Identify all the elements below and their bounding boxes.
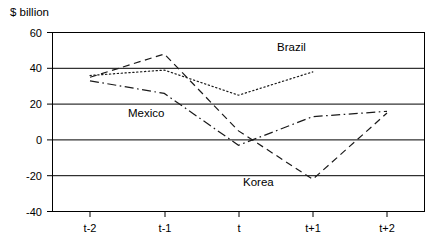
y-axis-label-20: 20 [8,98,42,110]
y-axis-label-40: 40 [8,62,42,74]
x-axis-ticks [90,212,387,218]
plot-frame [53,33,425,212]
x-axis-label-t-2: t-2 [60,222,120,234]
plot-area [0,0,443,249]
x-axis-label-t: t [209,222,269,234]
y-axis-label-minus20: -20 [8,170,42,182]
chart-container: $ billion 60 40 20 0 [0,0,443,249]
x-axis-label-t+2: t+2 [357,222,417,234]
y-axis-label-minus40: -40 [8,206,42,218]
series-annotation-mexico: Mexico [128,107,164,119]
series-line-brazil [90,70,313,95]
y-axis-ticks [47,33,53,212]
x-axis-label-t+1: t+1 [283,222,343,234]
y-axis-label-60: 60 [8,27,42,39]
series-annotation-korea: Korea [243,176,274,188]
series-annotation-brazil: Brazil [277,41,306,53]
y-axis-label-0: 0 [8,134,42,146]
x-axis-label-t-1: t-1 [135,222,195,234]
